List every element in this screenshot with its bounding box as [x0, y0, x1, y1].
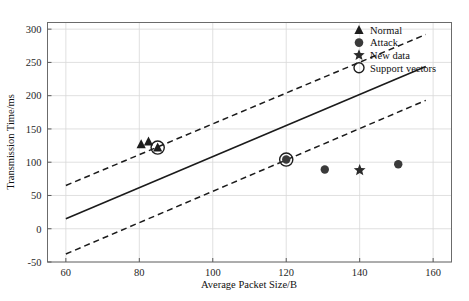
- x-tickmarks: [66, 258, 433, 262]
- x-tick-label: 100: [205, 267, 221, 278]
- data-point-normal: [153, 143, 162, 152]
- y-tick-label: 150: [26, 124, 42, 135]
- y-tick-label: 300: [26, 24, 42, 35]
- data-point-attack: [321, 165, 329, 173]
- legend-marker-support-vectors: [354, 63, 364, 73]
- data-point-normal: [137, 139, 146, 148]
- legend: NormalAttackNew dataSupport vectors: [353, 25, 436, 74]
- legend-marker-new-data: [353, 49, 364, 60]
- scatter-chart: 6080100120140160 -50050100150200250300 A…: [0, 0, 469, 301]
- legend-label: Support vectors: [370, 63, 436, 74]
- y-axis-title: Transmission Time/ms: [5, 94, 16, 190]
- x-tick-label: 140: [352, 267, 368, 278]
- legend-marker-attack: [355, 38, 364, 47]
- x-tick-label: 80: [134, 267, 145, 278]
- data-point-attack: [282, 155, 290, 163]
- y-tick-label: -50: [28, 257, 42, 268]
- y-tick-labels: -50050100150200250300: [26, 24, 42, 268]
- chart-canvas: 6080100120140160 -50050100150200250300 A…: [0, 0, 469, 301]
- x-axis-title: Average Packet Size/B: [201, 279, 297, 290]
- lower-margin: [66, 100, 426, 254]
- x-tick-label: 60: [61, 267, 72, 278]
- y-tickmarks: [48, 29, 52, 262]
- legend-label: Attack: [370, 37, 399, 48]
- y-tick-label: 200: [26, 90, 42, 101]
- legend-label: New data: [370, 50, 410, 61]
- data-point-attack: [394, 160, 402, 168]
- x-tick-labels: 6080100120140160: [61, 267, 441, 278]
- decision-boundary: [66, 66, 426, 218]
- x-tick-label: 120: [278, 267, 294, 278]
- data-points: [137, 137, 403, 176]
- legend-label: Normal: [370, 25, 402, 36]
- y-tick-label: 100: [26, 157, 42, 168]
- y-tick-label: 250: [26, 57, 42, 68]
- y-tick-label: 0: [36, 224, 41, 235]
- x-tick-label: 160: [425, 267, 441, 278]
- y-tick-label: 50: [31, 190, 42, 201]
